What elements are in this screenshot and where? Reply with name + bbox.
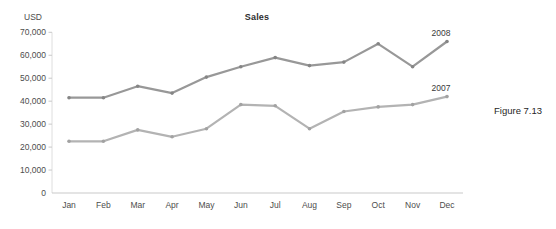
data-point-2007-Aug bbox=[308, 127, 312, 131]
y-axis-tick-label: 20,000 bbox=[20, 142, 46, 152]
x-axis-tick-label: Dec bbox=[439, 200, 455, 210]
data-point-2008-Feb bbox=[102, 96, 106, 100]
data-point-2008-Jun bbox=[239, 65, 243, 69]
y-axis-tick-label: 40,000 bbox=[20, 96, 46, 106]
data-point-2007-Oct bbox=[376, 105, 380, 109]
data-point-2008-Aug bbox=[308, 64, 312, 68]
data-point-2008-Dec bbox=[445, 40, 449, 44]
data-point-2008-Nov bbox=[411, 65, 415, 69]
y-axis-tick-label: 10,000 bbox=[20, 165, 46, 175]
x-axis-tick-label: Oct bbox=[372, 200, 386, 210]
x-axis-tick-label: Feb bbox=[96, 200, 111, 210]
series-label-2008: 2008 bbox=[432, 28, 451, 38]
x-axis-tick-label: Apr bbox=[165, 200, 178, 210]
data-point-2008-Oct bbox=[376, 42, 380, 46]
data-point-2007-Apr bbox=[170, 135, 174, 139]
data-point-2008-Jul bbox=[273, 56, 277, 60]
x-axis-tick-label: Mar bbox=[130, 200, 145, 210]
x-axis-tick-label: Aug bbox=[302, 200, 317, 210]
series-label-2007: 2007 bbox=[432, 83, 451, 93]
data-point-2007-Jul bbox=[273, 104, 277, 108]
data-point-2008-May bbox=[205, 75, 209, 79]
data-point-2008-Jan bbox=[67, 96, 71, 100]
x-axis-tick-label: Jun bbox=[234, 200, 248, 210]
y-axis-tick-label: 30,000 bbox=[20, 119, 46, 129]
series-line-2007 bbox=[69, 97, 447, 142]
data-point-2008-Apr bbox=[170, 91, 174, 95]
data-point-2007-Dec bbox=[445, 95, 449, 99]
x-axis-tick-label: Jul bbox=[270, 200, 281, 210]
data-point-2008-Mar bbox=[136, 84, 140, 88]
y-axis-tick-label: 0 bbox=[41, 188, 46, 198]
data-point-2008-Sep bbox=[342, 60, 346, 64]
y-axis-tick-label: 50,000 bbox=[20, 73, 46, 83]
y-axis-tick-label: 70,000 bbox=[20, 27, 46, 37]
x-axis-tick-label: Jan bbox=[62, 200, 76, 210]
figure-caption: Figure 7.13 bbox=[494, 105, 542, 116]
data-point-2007-Jun bbox=[239, 103, 243, 107]
y-axis-tick-label: 60,000 bbox=[20, 50, 46, 60]
x-axis-tick-label: Sep bbox=[336, 200, 351, 210]
data-point-2007-Sep bbox=[342, 110, 346, 114]
data-point-2007-May bbox=[205, 127, 209, 131]
data-point-2007-Mar bbox=[136, 128, 140, 132]
x-axis-tick-label: Nov bbox=[405, 200, 421, 210]
data-point-2007-Feb bbox=[102, 140, 106, 144]
series-line-2008 bbox=[69, 42, 447, 98]
data-point-2007-Jan bbox=[67, 140, 71, 144]
x-axis-tick-label: May bbox=[198, 200, 215, 210]
plot-area: 010,00020,00030,00040,00050,00060,00070,… bbox=[0, 0, 556, 229]
data-point-2007-Nov bbox=[411, 103, 415, 107]
sales-chart-panel: USD Sales 010,00020,00030,00040,00050,00… bbox=[0, 0, 556, 229]
